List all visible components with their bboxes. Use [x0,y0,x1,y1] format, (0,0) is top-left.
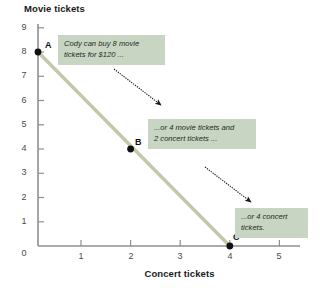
callout-c-arrow-icon [205,167,251,202]
y-axis-title: Movie tickets [24,3,85,14]
y-tick-label-8: 8 [16,46,32,56]
x-tick-label-2: 2 [123,251,139,261]
data-point-c [226,243,233,250]
point-label-a: A [45,40,52,50]
y-tick-label-2: 2 [16,192,32,202]
y-tick-label-7: 7 [16,70,32,80]
budget-constraint-chart: Movie tickets Concert tickets 9 8 7 6 5 … [0,0,325,288]
callout-a-line-1: Cody can buy 8 movie [64,39,159,50]
x-axis-ticks [81,240,279,246]
y-tick-label-5: 5 [16,119,32,129]
data-point-a [35,49,42,56]
callout-a-line-2: tickets for $120 ... [64,50,159,61]
y-tick-label-9: 9 [16,22,32,32]
y-tick-label-0: 0 [16,248,32,258]
point-label-b: B [135,137,142,147]
callout-b: ...or 4 movie tickets and 2 concert tick… [148,119,256,149]
x-tick-label-5: 5 [271,251,287,261]
y-tick-label-1: 1 [16,216,32,226]
callout-b-line-2: 2 concert tickets ... [154,134,250,145]
callout-c-line-1: ...or 4 concert [241,212,302,223]
x-tick-label-3: 3 [172,251,188,261]
callout-c-line-2: tickets. [241,223,302,234]
callout-c: ...or 4 concert tickets. [235,208,308,238]
callout-a-arrow-icon [114,69,161,105]
x-tick-label-4: 4 [222,251,238,261]
y-tick-label-3: 3 [16,167,32,177]
y-tick-label-4: 4 [16,143,32,153]
callout-b-line-1: ...or 4 movie tickets and [154,123,250,134]
data-point-b [127,146,134,153]
x-tick-label-1: 1 [73,251,89,261]
x-axis-title: Concert tickets [0,268,325,279]
callout-a: Cody can buy 8 movie tickets for $120 ..… [58,35,165,65]
y-tick-label-6: 6 [16,95,32,105]
